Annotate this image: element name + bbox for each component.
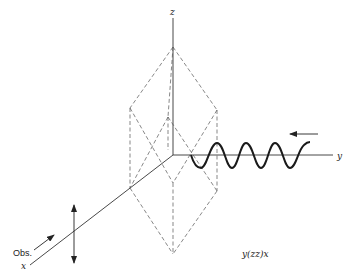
scattering-notation: y(zz)x (241, 249, 269, 259)
y-axis-label: y (336, 151, 343, 161)
coordinate-axes (30, 18, 333, 265)
observation-direction-arrow (34, 235, 54, 250)
crystal-rhombohedron (130, 47, 217, 254)
z-axis-label: z (169, 7, 175, 17)
raman-scattering-geometry-diagram: z y x Obs. y(zz)x (0, 0, 350, 277)
x-axis-label: x (21, 261, 26, 271)
observer-label: Obs. (13, 248, 32, 258)
x-axis (30, 155, 173, 265)
